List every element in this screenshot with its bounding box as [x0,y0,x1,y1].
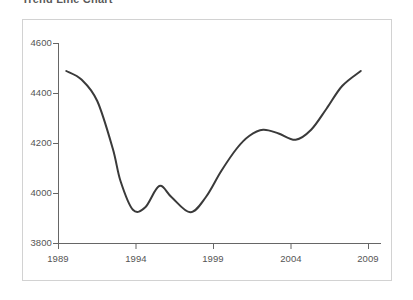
x-tick-label-1989: 1989 [38,254,78,264]
x-tick-label-2004: 2004 [271,254,311,264]
y-tick-label-3800: 3800 [18,238,52,248]
y-tick-label-4400: 4400 [18,88,52,98]
y-tick-label-4600: 4600 [18,38,52,48]
plot-frame [22,19,392,281]
x-tick-label-1999: 1999 [193,254,233,264]
x-tick-label-2009: 2009 [348,254,388,264]
chart-title: Trend Line Chart [22,0,113,3]
x-tick-label-1994: 1994 [116,254,156,264]
y-tick-label-4200: 4200 [18,138,52,148]
y-tick-label-4000: 4000 [18,188,52,198]
chart-container: Trend Line Chart 4600 4400 4200 4000 [0,0,413,300]
